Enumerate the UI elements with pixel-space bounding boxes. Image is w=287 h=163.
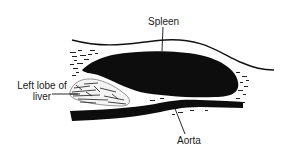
spleen-leader-line bbox=[162, 27, 163, 51]
anatomy-diagram: Spleen Aorta Left lobe of liver bbox=[0, 0, 287, 163]
liver-label-line1: Left lobe of bbox=[12, 80, 72, 91]
aorta-label: Aorta bbox=[177, 135, 201, 146]
aorta-leader-line bbox=[174, 106, 185, 134]
liver-label-line2: liver bbox=[12, 91, 72, 102]
spleen-label: Spleen bbox=[148, 16, 179, 27]
liver-label: Left lobe of liver bbox=[12, 80, 72, 102]
